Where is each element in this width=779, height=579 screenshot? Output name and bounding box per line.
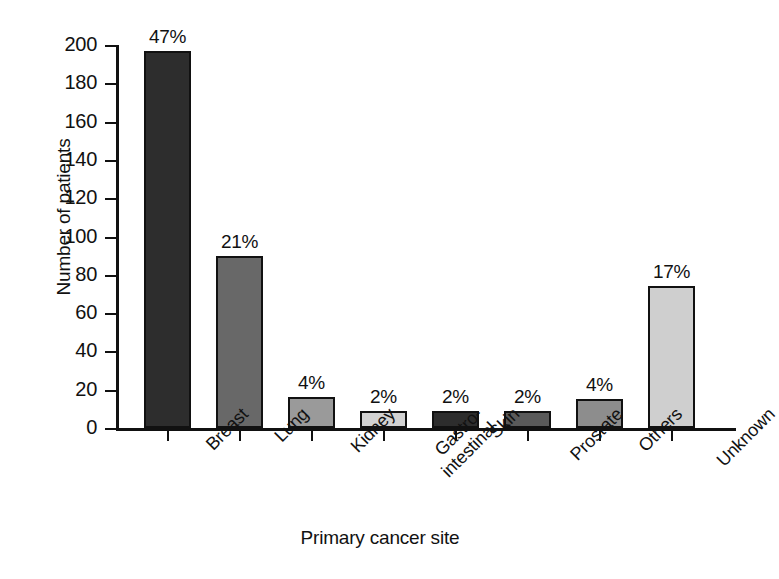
plot-area: 200 180 160 140 120 100 80 60 40 20 0 xyxy=(116,45,736,428)
bar-breast[interactable]: 47% xyxy=(144,51,191,428)
bar-value-others: 4% xyxy=(586,374,613,396)
y-tick-label-0: 0 xyxy=(86,416,97,439)
x-tick-0 xyxy=(167,428,169,441)
y-tick-label-120: 120 xyxy=(65,186,97,209)
y-tick-label-180: 180 xyxy=(65,71,97,94)
x-tick-2 xyxy=(311,428,313,441)
y-tick-label-40: 40 xyxy=(75,339,97,362)
bar-value-kidney: 4% xyxy=(298,372,325,394)
y-tick-label-20: 20 xyxy=(75,378,97,401)
bar-value-breast: 47% xyxy=(149,26,186,48)
y-axis-line xyxy=(116,45,119,428)
y-tick-140: 140 xyxy=(105,160,116,162)
bar-value-skin: 2% xyxy=(442,386,469,408)
y-tick-160: 160 xyxy=(105,122,116,124)
y-tick-label-160: 160 xyxy=(65,110,97,133)
y-tick-100: 100 xyxy=(105,237,116,239)
y-tick-label-80: 80 xyxy=(75,263,97,286)
y-tick-60: 60 xyxy=(105,313,116,315)
x-tick-5 xyxy=(527,428,529,441)
bar-value-prostate: 2% xyxy=(514,386,541,408)
bar-value-lung: 21% xyxy=(221,231,258,253)
bar-lung[interactable]: 21% xyxy=(216,256,263,428)
x-axis-line xyxy=(116,428,736,431)
y-tick-120: 120 xyxy=(105,198,116,200)
bar-value-unknown: 17% xyxy=(653,261,690,283)
x-axis-title: Primary cancer site xyxy=(0,527,760,549)
y-tick-180: 180 xyxy=(105,83,116,85)
y-tick-20: 20 xyxy=(105,390,116,392)
y-tick-label-140: 140 xyxy=(65,148,97,171)
y-tick-200: 200 xyxy=(105,45,116,47)
y-tick-label-60: 60 xyxy=(75,301,97,324)
y-tick-40: 40 xyxy=(105,351,116,353)
y-tick-0: 0 xyxy=(105,428,116,430)
y-tick-label-200: 200 xyxy=(65,33,97,56)
y-tick-80: 80 xyxy=(105,275,116,277)
y-tick-label-100: 100 xyxy=(65,225,97,248)
